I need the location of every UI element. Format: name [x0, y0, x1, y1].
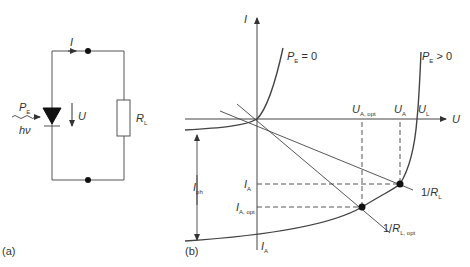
- i-a-label: IA: [244, 178, 251, 192]
- resistor-label: RL: [136, 112, 148, 126]
- operating-point-opt: [359, 204, 366, 211]
- load-line: [220, 111, 413, 190]
- light-curve-label: PE > 0: [422, 50, 452, 64]
- load-line-label: 1/RL: [421, 186, 442, 200]
- dark-curve-label: PE = 0: [287, 50, 317, 64]
- operating-point: [397, 181, 404, 188]
- resistor: [117, 100, 130, 136]
- i-a-opt-label: IA, opt: [236, 201, 255, 215]
- photodiode-icon: [43, 108, 61, 124]
- photon-label: hν: [19, 124, 31, 136]
- y-axis-label: I: [244, 13, 247, 25]
- terminal-bottom: [85, 177, 91, 183]
- u-a-label: UA: [394, 103, 406, 117]
- u-a-opt-label: UA, opt: [352, 103, 376, 117]
- load-line-opt-label: 1/RL, opt: [383, 222, 415, 236]
- circuit-panel: [12, 48, 130, 183]
- i-a-bottom-label: IA: [261, 240, 268, 254]
- voltage-label: U: [78, 110, 86, 122]
- current-label: I: [70, 36, 73, 48]
- reverse-branch: [185, 119, 257, 130]
- panel-b-label: (b): [185, 245, 198, 257]
- light-wave-icon: [12, 116, 35, 119]
- panel-a-label: (a): [2, 245, 15, 257]
- power-label: PE: [19, 101, 30, 115]
- dark-curve: [257, 48, 283, 119]
- u-l-label: UL: [418, 103, 430, 117]
- x-axis-label: U: [452, 113, 460, 125]
- photodiode-diagram: I U RL PE hν (a) I U PE = 0 PE > 0: [0, 0, 470, 267]
- light-curve: [185, 52, 421, 241]
- circuit-wire: [52, 51, 124, 180]
- terminal-top: [85, 48, 91, 54]
- load-line-opt: [237, 104, 390, 233]
- i-ph-label: Iph: [193, 181, 203, 195]
